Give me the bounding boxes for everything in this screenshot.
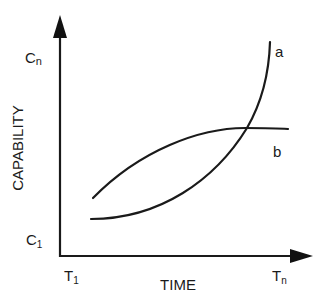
x-end-label-sub: n xyxy=(281,275,287,286)
y-axis-title: CAPABILITY xyxy=(9,105,26,191)
y-bottom-label-main: C xyxy=(26,231,37,248)
y-top-label-main: C xyxy=(25,49,36,66)
x-end-label-main: T xyxy=(272,267,281,284)
y-bottom-label: C1 xyxy=(26,231,43,250)
x-axis-title: TIME xyxy=(160,276,196,293)
x-start-label-sub: 1 xyxy=(73,275,79,286)
curve-a xyxy=(91,42,270,219)
x-start-label: T1 xyxy=(64,267,79,286)
y-bottom-label-sub: 1 xyxy=(37,239,43,250)
y-top-label: Cn xyxy=(25,49,42,67)
capability-time-diagram: a b Cn C1 T1 Tn TIME CAPABILITY xyxy=(0,0,329,302)
y-top-label-sub: n xyxy=(36,55,42,67)
curve-a-label: a xyxy=(275,43,284,60)
x-start-label-main: T xyxy=(64,267,73,284)
x-axis-arrowhead xyxy=(290,249,313,263)
curve-b-label: b xyxy=(273,143,281,160)
y-axis-arrowhead xyxy=(53,15,67,38)
x-end-label: Tn xyxy=(272,267,287,286)
